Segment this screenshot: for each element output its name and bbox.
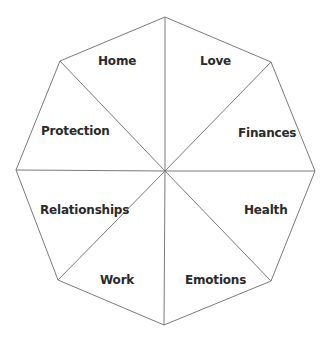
segment-label-finances: Finances (238, 126, 296, 140)
spoke-left (16, 170, 165, 171)
spoke-upper-right (165, 62, 271, 171)
spoke-lower-left (58, 171, 165, 280)
segment-label-health: Health (244, 203, 287, 217)
spokes (16, 17, 315, 325)
octagon-diagram (0, 0, 327, 338)
segment-label-emotions: Emotions (185, 273, 246, 287)
segment-label-relationships: Relationships (40, 203, 129, 217)
spoke-lower-right (165, 171, 271, 281)
segment-label-home: Home (98, 54, 136, 68)
segment-label-love: Love (200, 54, 231, 68)
spoke-upper-left (60, 61, 165, 171)
spoke-bottom (164, 171, 165, 325)
segment-label-protection: Protection (41, 124, 110, 138)
segment-label-work: Work (100, 273, 134, 287)
